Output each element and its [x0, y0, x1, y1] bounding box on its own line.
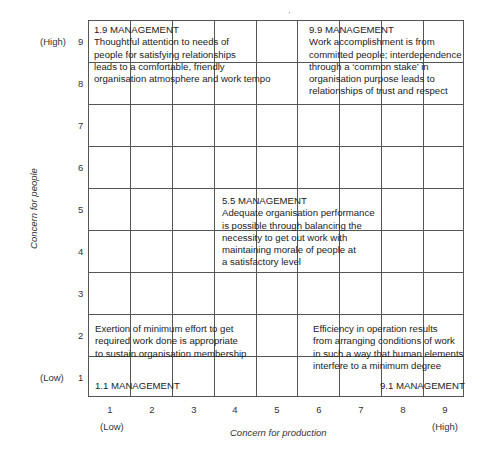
grid-line [89, 146, 463, 147]
style-text-line: relationships of trust and respect [309, 85, 462, 97]
style-text-line: in such a way that human elements [313, 348, 463, 360]
grid-line [89, 104, 463, 105]
style-text-line: from arranging conditions of work [313, 335, 463, 347]
y-tick: 3 [78, 288, 83, 299]
style-text-line: leads to a comfortable, friendly [94, 61, 271, 73]
x-high-label: (High) [432, 421, 458, 432]
style-text-line: committed people; interdependence [309, 49, 462, 61]
style-title: 5.5 MANAGEMENT [222, 195, 375, 207]
style-title: 9.9 MANAGEMENT [309, 24, 462, 36]
grid-line [89, 314, 463, 315]
y-high-label: (High) [40, 36, 66, 47]
style-text-line: a satisfactory level [222, 256, 375, 268]
grid-line [89, 272, 463, 273]
x-tick: 1 [100, 404, 120, 415]
x-tick: 2 [142, 404, 162, 415]
style-9-9-block: 9.9 MANAGEMENT Work accomplishment is fr… [309, 24, 462, 98]
style-text-line: people for satisfying relationships [94, 49, 271, 61]
style-text-line: Thoughtful attention to needs of [94, 36, 271, 48]
y-tick: 6 [78, 162, 83, 173]
style-title: 1.9 MANAGEMENT [94, 24, 271, 36]
x-tick: 9 [435, 404, 455, 415]
style-9-1-description: Efficiency in operation results from arr… [313, 323, 463, 372]
x-tick: 5 [267, 404, 287, 415]
y-tick: 9 [78, 36, 83, 47]
y-tick: 8 [78, 78, 83, 89]
y-axis-title: Concern for people [28, 154, 39, 264]
style-1-9-block: 1.9 MANAGEMENT Thoughtful attention to n… [94, 24, 271, 85]
style-1-1-description: Exertion of minimum effort to get requir… [95, 323, 246, 360]
style-1-1-title: 1.1 MANAGEMENT [95, 380, 180, 392]
y-tick: 5 [78, 204, 83, 215]
x-tick: 4 [225, 404, 245, 415]
style-text-line: is possible through balancing the [222, 220, 375, 232]
x-tick: 7 [351, 404, 371, 415]
style-text-line: maintaining morale of people at [222, 244, 375, 256]
grid-line [89, 188, 463, 189]
style-text-line: organisation atmosphere and work tempo [94, 73, 271, 85]
style-text-line: organisation purpose leads to [309, 73, 462, 85]
style-text-line: through a ‘common stake’ in [309, 61, 462, 73]
style-text-line: Exertion of minimum effort to get [95, 323, 246, 335]
stray-dot [289, 12, 290, 13]
style-text-line: to sustain organisation membership [95, 348, 246, 360]
style-text-line: Work accomplishment is from [309, 36, 462, 48]
x-tick: 8 [393, 404, 413, 415]
y-tick: 4 [78, 246, 83, 257]
style-text-line: interfere to a minimum degree [313, 360, 463, 372]
x-tick: 3 [184, 404, 204, 415]
y-tick: 7 [78, 120, 83, 131]
style-text-line: necessity to get out work with [222, 232, 375, 244]
style-text-line: Efficiency in operation results [313, 323, 463, 335]
y-low-label: (Low) [40, 372, 64, 383]
x-low-label: (Low) [100, 421, 124, 432]
x-axis-title: Concern for production [230, 427, 327, 438]
x-tick: 6 [309, 404, 329, 415]
style-9-1-title: 9.1 MANAGEMENT [380, 380, 465, 392]
y-tick: 1 [78, 372, 83, 383]
y-tick: 2 [78, 330, 83, 341]
style-5-5-block: 5.5 MANAGEMENT Adequate organisation per… [222, 195, 375, 269]
style-text-line: Adequate organisation performance [222, 207, 375, 219]
style-text-line: required work done is appropriate [95, 335, 246, 347]
